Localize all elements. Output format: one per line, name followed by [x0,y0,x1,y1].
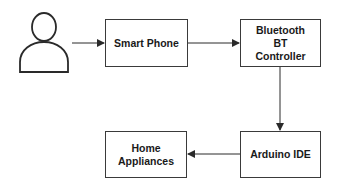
node-bluetooth-controller: Bluetooth BT Controller [240,19,321,67]
node-smart-phone: Smart Phone [105,19,188,67]
node-label: Home Appliances [118,142,174,168]
node-label: Bluetooth BT Controller [249,24,312,63]
node-arduino-ide: Arduino IDE [240,131,321,178]
node-home-appliances: Home Appliances [105,131,187,178]
node-label: Smart Phone [114,37,179,50]
user-icon [20,13,68,72]
flow-diagram: Smart Phone Bluetooth BT Controller Ardu… [0,0,338,187]
node-label: Arduino IDE [250,148,311,161]
